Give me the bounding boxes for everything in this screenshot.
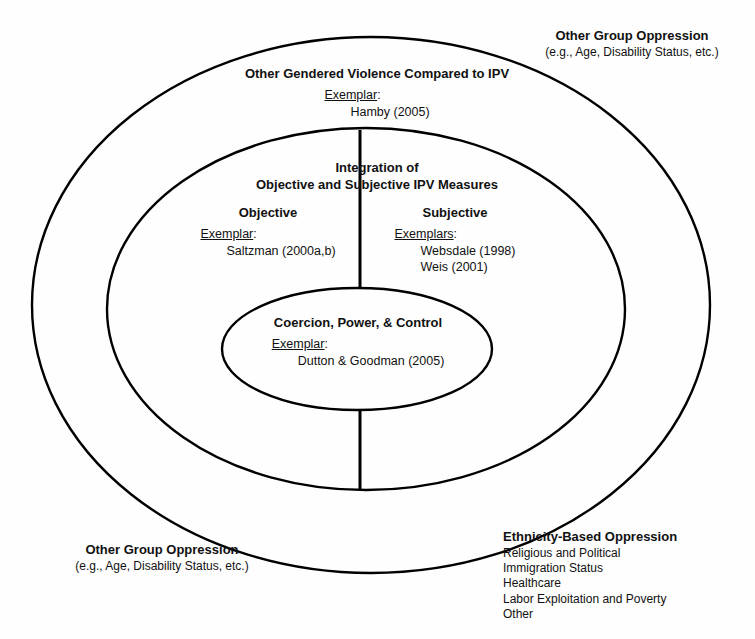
middle-ring-right-exemplar-label: Exemplars:	[395, 223, 516, 243]
annotation-bottom-right-item: Other	[503, 607, 677, 622]
outer-ring-content: Other Gendered Violence Compared to IPV …	[245, 66, 509, 122]
outer-ring-heading: Other Gendered Violence Compared to IPV	[245, 66, 509, 83]
annotation-top-right: Other Group Oppression (e.g., Age, Disab…	[545, 28, 718, 60]
middle-ring-right-exemplar-item: Websdale (1998)	[395, 243, 516, 259]
exemplar-label-text: Exemplar	[272, 337, 325, 351]
inner-ring-exemplar-label: Exemplar:	[272, 333, 445, 353]
exemplar-label-colon: :	[454, 227, 457, 241]
outer-ring-exemplar-item: Hamby (2005)	[324, 104, 429, 120]
annotation-bottom-right-item: Healthcare	[503, 576, 677, 591]
exemplar-label-colon: :	[377, 88, 380, 102]
outer-ring-exemplar-group: Exemplar: Hamby (2005)	[324, 84, 429, 120]
annotation-top-right-heading: Other Group Oppression	[545, 28, 718, 45]
middle-ring-heading: Integration of Objective and Subjective …	[256, 160, 498, 193]
exemplar-label-text: Exemplar	[200, 227, 253, 241]
exemplar-label-colon: :	[253, 227, 256, 241]
figure-canvas: Other Group Oppression (e.g., Age, Disab…	[0, 0, 755, 639]
middle-ring-heading-line2: Objective and Subjective IPV Measures	[256, 177, 498, 194]
inner-ring-heading: Coercion, Power, & Control	[272, 315, 445, 332]
annotation-bottom-right-item: Religious and Political	[503, 546, 677, 561]
exemplar-label-text: Exemplar	[324, 88, 377, 102]
annotation-bottom-right: Ethnicity-Based Oppression Religious and…	[503, 529, 677, 622]
middle-ring-left-heading: Objective	[200, 205, 335, 222]
middle-ring-right-exemplar-item: Weis (2001)	[395, 259, 516, 275]
annotation-bottom-right-heading: Ethnicity-Based Oppression	[503, 529, 677, 546]
outer-ring-exemplar-label: Exemplar:	[324, 84, 429, 104]
annotation-bottom-left: Other Group Oppression (e.g., Age, Disab…	[75, 542, 248, 574]
middle-ring-heading-line1: Integration of	[256, 160, 498, 177]
annotation-bottom-right-item: Immigration Status	[503, 561, 677, 576]
inner-ring-exemplar-item: Dutton & Goodman (2005)	[272, 353, 445, 369]
annotation-bottom-right-item: Labor Exploitation and Poverty	[503, 592, 677, 607]
middle-ring-left-column: Objective Exemplar: Saltzman (2000a,b)	[200, 205, 335, 261]
middle-ring-right-column: Subjective Exemplars: Websdale (1998) We…	[395, 205, 516, 277]
middle-ring-right-exemplar-group: Exemplars: Websdale (1998) Weis (2001)	[395, 223, 516, 275]
annotation-bottom-left-heading: Other Group Oppression	[75, 542, 248, 559]
middle-ring-left-exemplar-item: Saltzman (2000a,b)	[200, 243, 335, 259]
middle-ring-left-exemplar-label: Exemplar:	[200, 223, 335, 243]
inner-ring-content: Coercion, Power, & Control Exemplar: Dut…	[272, 315, 445, 371]
middle-ring-left-exemplar-group: Exemplar: Saltzman (2000a,b)	[200, 223, 335, 259]
exemplar-label-text: Exemplars	[395, 227, 454, 241]
middle-ring-right-heading: Subjective	[395, 205, 516, 222]
annotation-top-right-detail: (e.g., Age, Disability Status, etc.)	[545, 45, 718, 60]
inner-ring-exemplar-group: Exemplar: Dutton & Goodman (2005)	[272, 333, 445, 369]
exemplar-label-colon: :	[324, 337, 327, 351]
annotation-bottom-left-detail: (e.g., Age, Disability Status, etc.)	[75, 559, 248, 574]
